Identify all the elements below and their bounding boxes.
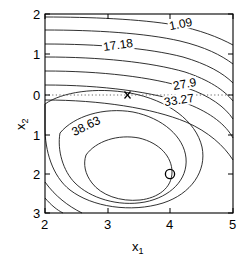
x-axis-title-subscript: 1 (139, 246, 144, 256)
y-tick-label: 3 (33, 207, 40, 220)
x-tick-label: 4 (166, 218, 173, 231)
y-tick-label: 1 (33, 129, 40, 142)
circle-marker (165, 169, 174, 178)
contour-line (45, 198, 63, 213)
x-tick-label: 5 (229, 218, 236, 231)
contour-line (45, 182, 82, 213)
contour-lines (45, 17, 233, 213)
contour-line (45, 57, 233, 101)
y-axis-title: x2 (14, 118, 30, 130)
contour-line (45, 90, 203, 207)
y-tick-label: 2 (33, 168, 40, 181)
y-tick-label: 0 (33, 89, 40, 102)
contour-line (85, 137, 172, 200)
contour-line (45, 17, 233, 45)
x-tick-label: 3 (104, 218, 111, 231)
contour-plot-figure: 1.09 17.18 27.9 33.27 38.63 2 3 4 5 2 1 … (0, 0, 252, 264)
y-tick-label: 1 (33, 48, 40, 61)
y-axis-title-text: x (13, 124, 28, 131)
x-tick-label: 2 (41, 218, 48, 231)
y-axis-title-subscript: 2 (20, 118, 30, 123)
contour-line (45, 30, 233, 64)
x-axis-title: x1 (132, 240, 144, 256)
y-tick-label: 2 (33, 8, 40, 21)
